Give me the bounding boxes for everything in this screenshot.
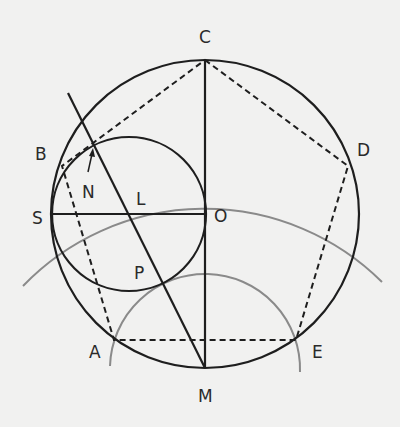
- label-N: N: [82, 182, 95, 202]
- label-O: O: [214, 206, 227, 226]
- label-M: M: [198, 386, 213, 406]
- label-P: P: [134, 263, 144, 283]
- label-D: D: [357, 140, 370, 160]
- label-L: L: [136, 189, 146, 209]
- arrow-shaft: [88, 154, 92, 172]
- diagram-canvas: C B D N L S O P A E M: [0, 0, 400, 427]
- label-B: B: [35, 144, 47, 164]
- label-S: S: [32, 208, 43, 228]
- line-ML: [68, 93, 205, 368]
- label-E: E: [312, 342, 323, 362]
- label-C: C: [199, 27, 211, 47]
- arrow-head-icon: [89, 148, 95, 157]
- label-A: A: [89, 342, 101, 362]
- pentagon-diagram: C B D N L S O P A E M: [0, 0, 400, 427]
